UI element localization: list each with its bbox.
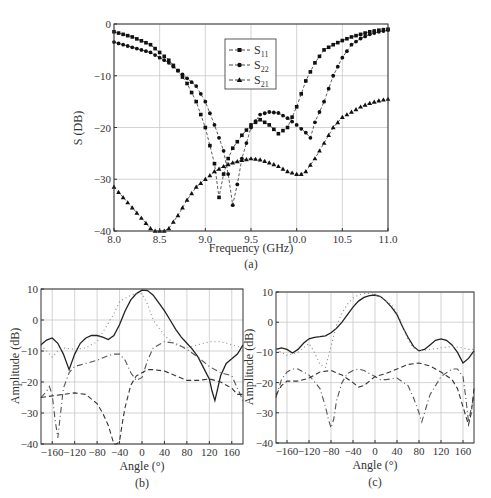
x-tick-label: 120 xyxy=(201,446,218,458)
x-axis-label-c: Angle (°) xyxy=(352,458,397,472)
y-tick-label: 0 xyxy=(268,316,274,328)
y-tick-label: −10 xyxy=(256,346,274,358)
y-tick-label: −20 xyxy=(94,122,112,134)
y-axis-label-b: Amplitude (dB) xyxy=(8,328,22,404)
chart-c-radiation-pattern: −160−120−80−4004080120160100−10−20−30−40… xyxy=(242,286,474,489)
y-tick-label: −40 xyxy=(94,225,112,237)
y-tick-label: 10 xyxy=(27,283,39,295)
ticks-b: −160−120−80−4004080120160100−10−20−30−40 xyxy=(21,283,241,458)
y-tick-label: −20 xyxy=(21,376,39,388)
x-tick-label: −80 xyxy=(322,445,340,457)
x-tick-label: 160 xyxy=(224,446,241,458)
y-tick-label: −30 xyxy=(256,407,274,419)
chart-b-radiation-pattern: −160−120−80−4004080120160100−10−20−30−40… xyxy=(8,283,243,490)
chart-a-s-parameters: 8.08.59.09.510.010.511.00−10−20−30−40 S1… xyxy=(71,18,398,271)
x-tick-label: 10.5 xyxy=(333,233,353,245)
circle-marker-icon xyxy=(237,63,241,67)
x-axis-label-b: Angle (°) xyxy=(119,459,164,473)
grid-b xyxy=(41,289,243,444)
x-tick-label: 40 xyxy=(159,446,171,458)
panel-label-a: (a) xyxy=(244,257,257,271)
square-marker-icon xyxy=(238,48,242,52)
x-axis-label-a: Frequency (GHz) xyxy=(209,241,293,255)
x-tick-label: 8.5 xyxy=(153,233,167,245)
x-tick-label: 80 xyxy=(181,446,193,458)
x-tick-label: 160 xyxy=(455,445,472,457)
x-tick-label: −120 xyxy=(63,446,86,458)
panel-label-c: (c) xyxy=(368,475,381,489)
y-tick-label: −10 xyxy=(94,70,112,82)
x-tick-label: −40 xyxy=(111,446,129,458)
y-tick-label: 0 xyxy=(33,314,39,326)
x-tick-label: 40 xyxy=(392,445,404,457)
y-tick-label: −30 xyxy=(21,407,39,419)
x-tick-label: 120 xyxy=(433,445,450,457)
y-tick-label: −40 xyxy=(256,437,274,449)
x-tick-label: −40 xyxy=(344,445,362,457)
y-tick-label: −40 xyxy=(21,438,39,450)
panel-label-b: (b) xyxy=(135,476,149,490)
y-tick-label: −20 xyxy=(256,377,274,389)
x-tick-label: −160 xyxy=(276,445,299,457)
y-axis-label-a: S (DB) xyxy=(71,111,85,145)
x-tick-label: 0 xyxy=(139,446,145,458)
y-axis-label-c: Amplitude (dB) xyxy=(242,329,256,405)
x-tick-label: −120 xyxy=(298,445,321,457)
grid-c xyxy=(276,292,474,443)
y-tick-label: 10 xyxy=(262,286,274,298)
x-tick-label: 0 xyxy=(372,445,378,457)
x-tick-label: 80 xyxy=(414,445,426,457)
y-tick-label: −30 xyxy=(94,173,112,185)
x-tick-label: −80 xyxy=(89,446,107,458)
y-tick-label: −10 xyxy=(21,345,39,357)
x-tick-label: 11.0 xyxy=(379,233,398,245)
legend-a: S11S22S21 xyxy=(225,39,276,89)
x-tick-label: −160 xyxy=(41,446,64,458)
y-tick-label: 0 xyxy=(106,18,112,30)
figure: 8.08.59.09.510.010.511.00−10−20−30−40 S1… xyxy=(0,0,491,498)
